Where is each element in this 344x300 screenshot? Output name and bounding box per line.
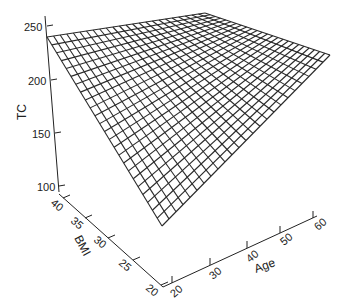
bmi-tick-40: 40 (49, 196, 66, 213)
mesh-line (152, 21, 274, 112)
mesh-line (119, 39, 283, 155)
bmi-tick-35: 35 (69, 214, 86, 231)
age-axis: 20 30 40 50 60 Age (163, 211, 329, 300)
z-tick-100: 100 (37, 181, 55, 193)
mesh-line (157, 53, 325, 218)
z-tick-250: 250 (24, 21, 42, 33)
bmi-axis-title: BMI (71, 233, 93, 258)
surface-mesh (47, 13, 330, 226)
bmi-tick-20: 20 (144, 281, 161, 298)
z-axis-title: TC (15, 104, 29, 120)
age-tick-30: 30 (207, 264, 224, 281)
age-tick-20: 20 (168, 282, 185, 299)
z-tick-150: 150 (32, 128, 50, 140)
age-tick-60: 60 (312, 215, 329, 232)
z-tick-200: 200 (28, 75, 46, 87)
mesh-line (124, 41, 289, 163)
surface-plot: 250 200 150 100 TC 40 35 30 25 20 BMI 20… (0, 0, 344, 300)
bmi-axis: 40 35 30 25 20 BMI (49, 194, 168, 298)
